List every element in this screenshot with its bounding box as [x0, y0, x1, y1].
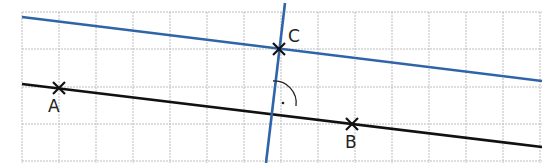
right-angle-dot — [282, 102, 285, 105]
points: ABC — [48, 26, 358, 152]
point-B-label: B — [345, 132, 357, 152]
geometry-diagram: ABC — [0, 0, 542, 163]
point-C-label: C — [288, 26, 300, 46]
lines — [22, 3, 542, 163]
line-AB — [22, 84, 542, 147]
point-A-label: A — [48, 96, 60, 116]
